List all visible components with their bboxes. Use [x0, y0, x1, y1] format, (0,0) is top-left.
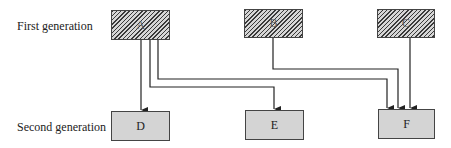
node-f-label: F — [403, 117, 410, 132]
node-a-label: A — [136, 18, 145, 33]
node-b: B — [244, 9, 303, 38]
node-c-label: C — [402, 16, 410, 31]
edge-b-to-f — [273, 38, 398, 108]
node-c: C — [377, 9, 435, 38]
edge-a-to-e — [150, 40, 274, 109]
node-d: D — [111, 111, 170, 141]
node-d-label: D — [136, 119, 145, 134]
node-f: F — [378, 109, 435, 139]
node-a: A — [111, 10, 170, 40]
node-e-label: E — [271, 118, 278, 133]
node-e: E — [245, 110, 304, 140]
node-b-label: B — [269, 16, 277, 31]
